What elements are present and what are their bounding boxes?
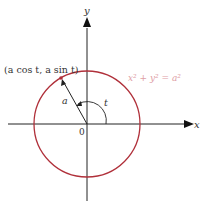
y-axis-label: y: [83, 5, 90, 16]
point-marker: [59, 76, 63, 80]
radius-label: a: [62, 95, 68, 106]
circle-equation: x² + y² = a²: [128, 73, 181, 83]
angle-arc: [78, 102, 106, 124]
y-axis: [83, 17, 91, 201]
origin-label: 0: [79, 127, 85, 137]
x-axis-label: x: [194, 119, 200, 130]
y-axis-arrow-icon: [83, 17, 91, 27]
angle-label: t: [104, 97, 108, 108]
point-label: (a cos t, a sin t): [4, 64, 78, 75]
x-axis-arrow-icon: [184, 120, 194, 128]
x-axis: [8, 120, 194, 128]
parametric-circle-diagram: y x 0 (a cos t, a sin t) a t x² + y² = a…: [0, 0, 200, 204]
